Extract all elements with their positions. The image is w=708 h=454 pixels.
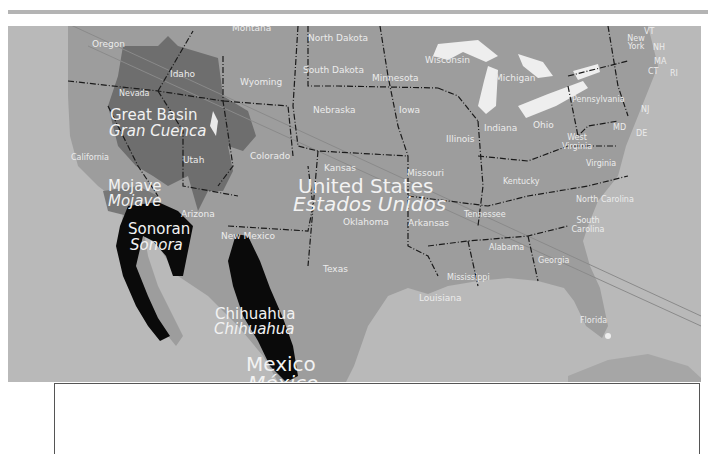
label-mojave-es: Mojave <box>108 194 162 209</box>
label-ohio: Ohio <box>533 121 554 130</box>
label-south-carolina: South Carolina <box>568 217 608 235</box>
label-georgia: Georgia <box>538 257 569 265</box>
label-north-carolina: North Carolina <box>576 196 634 204</box>
label-louisiana: Louisiana <box>419 294 462 303</box>
label-nebraska: Nebraska <box>313 106 355 115</box>
label-sonora: Sonora <box>130 238 183 253</box>
label-virginia: Virginia <box>586 160 616 168</box>
label-kansas: Kansas <box>324 164 356 173</box>
label-nh: NH <box>653 44 665 52</box>
label-gran-cuenca: Gran Cuenca <box>109 124 206 139</box>
label-alabama: Alabama <box>489 244 524 252</box>
label-nevada: Nevada <box>119 90 150 98</box>
label-kentucky: Kentucky <box>503 178 540 186</box>
label-illinois: Illinois <box>446 135 475 144</box>
label-de: DE <box>636 130 647 138</box>
label-texas: Texas <box>323 265 348 274</box>
label-minnesota: Minnesota <box>372 74 418 83</box>
label-new-york: New York <box>622 35 650 51</box>
label-montana: Montana <box>232 26 271 33</box>
label-michigan: Michigan <box>495 74 535 83</box>
label-indiana: Indiana <box>484 124 517 133</box>
label-ri: RI <box>670 70 678 78</box>
label-oregon: Oregon <box>92 40 125 49</box>
label-oklahoma: Oklahoma <box>343 218 389 227</box>
label-vt: VT <box>644 28 654 36</box>
label-florida: Florida <box>580 317 607 325</box>
label-new-mexico: New Mexico <box>221 232 275 241</box>
label-iowa: Iowa <box>399 106 420 115</box>
label-pennsylvania: Pennsylvania <box>572 96 625 104</box>
label-mississippi: Mississippi <box>447 274 490 282</box>
label-north-dakota: North Dakota <box>308 34 368 43</box>
label-california: California <box>71 154 109 162</box>
label-idaho: Idaho <box>170 70 195 79</box>
label-arizona: Arizona <box>181 210 215 219</box>
desert-map: Montana North Dakota Oregon Idaho Wyomin… <box>8 26 701 382</box>
label-estados-unidos: Estados Unidos <box>293 194 446 214</box>
lake-okeechobee <box>605 333 611 339</box>
label-nj: NJ <box>641 106 649 114</box>
label-md: MD <box>613 124 626 132</box>
page-top-rule <box>8 10 708 14</box>
label-chihuahua-es: Chihuahua <box>214 322 295 337</box>
label-tennessee: Tennessee <box>464 211 506 219</box>
label-arkansas: Arkansas <box>408 219 449 228</box>
label-west-virginia: West Virginia <box>560 134 594 152</box>
label-wyoming: Wyoming <box>240 78 282 87</box>
label-wisconsin: Wisconsin <box>425 56 470 65</box>
label-ma: MA <box>654 58 666 66</box>
label-south-dakota: South Dakota <box>303 66 364 75</box>
label-ct: CT <box>648 68 658 76</box>
label-colorado: Colorado <box>250 152 290 161</box>
label-utah: Utah <box>183 156 204 165</box>
label-mexico-es: México <box>248 373 318 382</box>
label-sonoran: Sonoran <box>128 222 190 237</box>
label-great-basin: Great Basin <box>110 108 198 123</box>
caption-box <box>54 383 700 454</box>
